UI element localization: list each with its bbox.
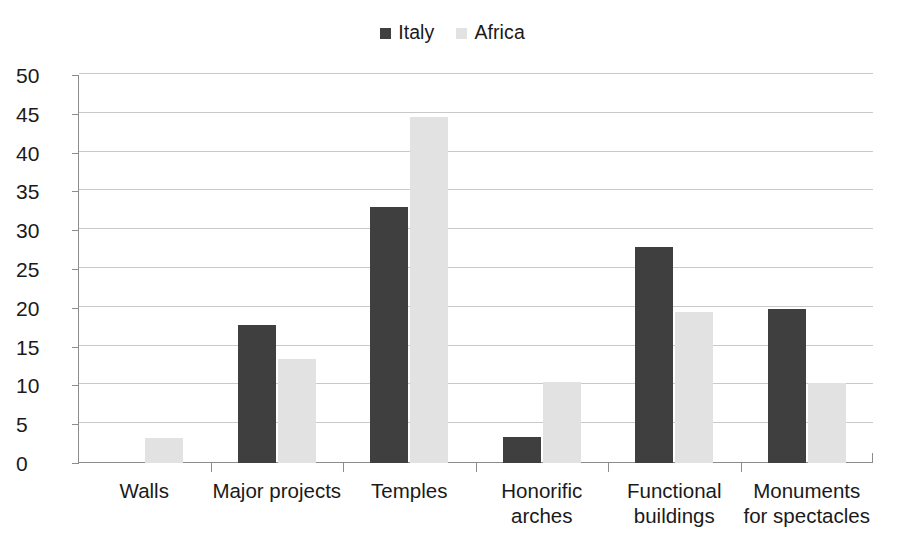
square-swatch-icon bbox=[380, 28, 391, 39]
x-axis-label-line: Major projects bbox=[211, 478, 344, 503]
bar-italy-5[interactable] bbox=[635, 247, 673, 463]
x-axis-label-line: for spectacles bbox=[741, 503, 874, 528]
x-axis-label: Functionalbuildings bbox=[608, 478, 741, 529]
bar-group bbox=[608, 75, 741, 463]
legend-entry-africa[interactable]: Africa bbox=[456, 23, 524, 43]
bar-italy-2[interactable] bbox=[238, 325, 276, 463]
x-axis-label-line: buildings bbox=[608, 503, 741, 528]
chart-legend: ItalyAfrica bbox=[0, 20, 905, 46]
x-axis-labels: WallsMajor projectsTemplesHonorificarche… bbox=[78, 478, 873, 548]
legend-entry-italy[interactable]: Italy bbox=[380, 23, 434, 43]
x-axis-label-line: Monuments bbox=[741, 478, 874, 503]
x-axis-tick bbox=[211, 463, 212, 472]
bar-africa-5[interactable] bbox=[675, 312, 713, 463]
bar-group bbox=[211, 75, 344, 463]
x-axis-tick bbox=[476, 463, 477, 472]
x-axis-label: Temples bbox=[343, 478, 476, 503]
bar-africa-1[interactable] bbox=[145, 438, 183, 463]
x-axis-tick bbox=[741, 463, 742, 472]
x-axis-label-line: arches bbox=[476, 503, 609, 528]
square-swatch-icon bbox=[456, 28, 467, 39]
x-axis-tick bbox=[608, 463, 609, 472]
legend-label: Africa bbox=[474, 23, 524, 43]
x-axis-tick bbox=[343, 463, 344, 472]
bar-chart: ItalyAfrica 05101520253035404550 WallsMa… bbox=[0, 0, 905, 553]
bar-africa-6[interactable] bbox=[808, 383, 846, 463]
x-axis-label: Honorificarches bbox=[476, 478, 609, 529]
bar-group bbox=[741, 75, 874, 463]
bar-africa-3[interactable] bbox=[410, 117, 448, 463]
x-axis-label: Monumentsfor spectacles bbox=[741, 478, 874, 529]
x-axis-label-line: Functional bbox=[608, 478, 741, 503]
x-axis-label-line: Walls bbox=[78, 478, 211, 503]
x-axis-label-line: Temples bbox=[343, 478, 476, 503]
bar-group bbox=[476, 75, 609, 463]
bar-africa-2[interactable] bbox=[278, 359, 316, 463]
x-axis-label: Walls bbox=[78, 478, 211, 503]
bars-layer bbox=[78, 75, 873, 463]
x-axis-label: Major projects bbox=[211, 478, 344, 503]
bar-africa-4[interactable] bbox=[543, 382, 581, 463]
bar-italy-6[interactable] bbox=[768, 309, 806, 463]
y-tick-mark-0 bbox=[72, 463, 79, 464]
bar-italy-3[interactable] bbox=[370, 207, 408, 463]
bar-group bbox=[78, 75, 211, 463]
bar-group bbox=[343, 75, 476, 463]
x-axis-label-line: Honorific bbox=[476, 478, 609, 503]
gridline-y-50 bbox=[79, 73, 873, 74]
legend-label: Italy bbox=[398, 23, 434, 43]
bar-italy-4[interactable] bbox=[503, 437, 541, 463]
